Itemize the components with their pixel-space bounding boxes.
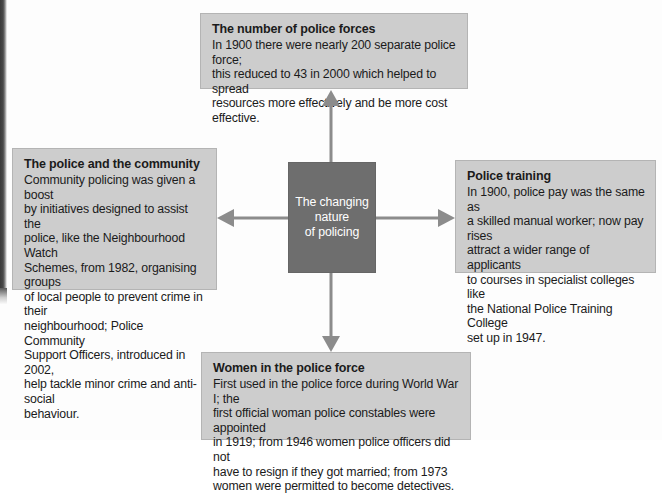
center-hub-label: The changing nature of policing [295,195,368,240]
arrow-left-icon [217,203,288,233]
arrow-up-icon [316,90,346,162]
node-police-training: Police training In 1900, police pay was … [455,160,656,273]
arrow-right-icon [376,203,455,233]
node-body: In 1900, police pay was the same as a sk… [467,185,645,346]
node-number-of-police-forces: The number of police forces In 1900 ther… [200,13,468,89]
node-body: Community policing was given a boost by … [24,173,206,421]
arrow-down-icon [316,273,346,352]
node-title: The police and the community [24,157,206,172]
node-center-hub: The changing nature of policing [288,162,376,273]
node-title: Police training [467,169,645,184]
node-title: The number of police forces [212,22,457,37]
node-title: Women in the police force [213,361,460,376]
node-police-and-the-community: The police and the community Community p… [12,148,217,290]
node-body: First used in the police force during Wo… [213,377,460,494]
page-scan-edge [0,0,7,292]
node-women-in-the-police-force: Women in the police force First used in … [201,352,471,440]
page-scan-edge-fade [0,288,7,304]
